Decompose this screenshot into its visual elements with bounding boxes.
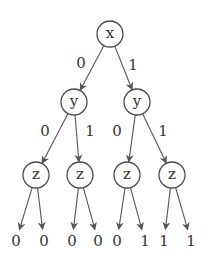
leaf-value: 0 bbox=[67, 232, 77, 250]
leaf-edge-arrow bbox=[165, 188, 170, 229]
leaf-edges-layer bbox=[19, 187, 187, 229]
node-label: y bbox=[69, 92, 79, 110]
leaf-value: 0 bbox=[93, 232, 103, 250]
tree-node-z: z bbox=[159, 162, 185, 188]
node-label: z bbox=[123, 165, 131, 183]
node-label: z bbox=[32, 165, 40, 183]
leaf-value: 1 bbox=[140, 232, 150, 250]
node-label: y bbox=[132, 92, 142, 110]
leaf-edge-arrow bbox=[19, 187, 32, 229]
edge-label: 0 bbox=[112, 122, 122, 140]
leaf-edge-arrow bbox=[119, 188, 125, 229]
leaf-value: 0 bbox=[39, 232, 49, 250]
tree-node-y: y bbox=[61, 89, 87, 115]
node-label: z bbox=[168, 165, 176, 183]
leaf-edge-arrow bbox=[38, 188, 43, 229]
leaf-edge-arrow bbox=[176, 187, 188, 229]
tree-node-z: z bbox=[67, 162, 93, 188]
edge-arrow bbox=[75, 115, 79, 162]
leaf-edge-arrow bbox=[73, 188, 78, 229]
decision-tree-diagram: xyyzzzz 010101 00000111 bbox=[0, 0, 210, 261]
leaves-layer: 00000111 bbox=[11, 232, 196, 250]
node-label: z bbox=[76, 165, 84, 183]
leaf-value: 0 bbox=[112, 232, 122, 250]
tree-node-z: z bbox=[23, 162, 49, 188]
edge-label: 1 bbox=[128, 56, 138, 74]
edge-label: 1 bbox=[85, 122, 95, 140]
leaf-value: 1 bbox=[159, 232, 169, 250]
nodes-layer: xyyzzzz bbox=[23, 21, 185, 188]
edge-label: 0 bbox=[76, 54, 86, 72]
edge-label: 0 bbox=[40, 122, 50, 140]
tree-node-x: x bbox=[97, 21, 123, 47]
leaf-value: 0 bbox=[11, 232, 21, 250]
edge-arrow bbox=[129, 115, 135, 162]
edge-label: 1 bbox=[158, 122, 168, 140]
tree-node-y: y bbox=[124, 89, 150, 115]
node-label: x bbox=[106, 24, 115, 42]
tree-node-z: z bbox=[114, 162, 140, 188]
leaf-edge-arrow bbox=[130, 188, 141, 230]
leaf-edge-arrow bbox=[83, 188, 94, 230]
leaf-value: 1 bbox=[186, 232, 196, 250]
